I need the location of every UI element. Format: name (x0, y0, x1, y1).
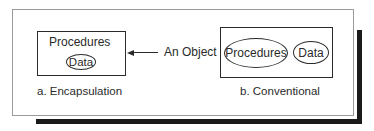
conventional-data-ellipse: Data (293, 41, 329, 64)
pointer-arrow-line (133, 52, 158, 53)
conventional-procedures-ellipse: Procedures (224, 38, 288, 68)
frame-shadow-right (357, 30, 362, 124)
encapsulation-caption: a. Encapsulation (37, 86, 122, 98)
conventional-data-label: Data (298, 46, 323, 60)
encapsulation-procedures-label: Procedures (49, 36, 110, 48)
conventional-caption: b. Conventional (240, 86, 320, 98)
conventional-procedures-label: Procedures (225, 46, 286, 60)
encapsulation-data-ellipse: Data (66, 54, 96, 70)
frame-shadow-bottom (36, 119, 362, 124)
encapsulation-data-label: Data (69, 56, 93, 68)
an-object-label: An Object (164, 46, 217, 58)
